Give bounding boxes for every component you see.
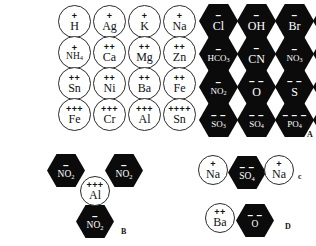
formula-label: NO3 [286,54,302,63]
ion-cation[interactable]: + Ag [93,5,126,38]
ion-anion[interactable]: – HSO4 [313,37,316,71]
ion-anion[interactable]: – NO2 [105,154,143,187]
ion-anion[interactable]: – Br [275,4,314,38]
formula-label: HCO3 [207,54,229,63]
formula-label: NO2 [58,170,75,180]
formula-label: SO4 [239,172,254,182]
formula-label: NH4 [66,52,83,62]
formula-label: Cr [104,113,116,125]
formula-label: Al [139,113,151,125]
formula-label: PO4 [287,120,302,129]
ion-cation[interactable]: +++ Cr [93,98,126,131]
ion-anion[interactable]: – – Cr2O7 [313,70,316,104]
formula-label: Ba [138,82,151,94]
panel-label-a: A [307,130,313,139]
formula-label: Na [272,168,286,180]
formula-label: Cl [213,20,224,32]
ion-cation[interactable]: ++++ Sn [163,98,196,131]
formula-label: K [140,20,149,32]
ion-anion[interactable]: – – O [237,70,276,104]
formula-label: Ag [102,20,117,32]
ion-cation[interactable]: ++ Ba [128,67,161,100]
formula-label: OH [248,20,265,32]
panel-label-b: B [121,227,126,236]
ion-anion[interactable]: – Cl [199,4,238,38]
formula-label: Al [89,189,101,201]
ion-cation[interactable]: +++ Al [128,98,161,131]
formula-label: Sn [173,113,186,125]
panel-label-c: c [298,172,302,181]
formula-label: SO4 [249,120,264,129]
formula-label: Ni [104,82,116,94]
formula-label: SO3 [211,120,226,129]
ion-cation[interactable]: + Na [198,155,228,185]
ion-anion[interactable]: – – – Fe(CN)6 [313,103,316,137]
formula-label: Fe [69,113,81,125]
ion-cation[interactable]: + Na [163,5,196,38]
ion-cation[interactable]: ++ Sn [58,67,91,100]
ion-cation[interactable]: + Na [264,155,294,185]
ion-anion[interactable]: – NO2 [199,70,238,104]
formula-label: NO2 [116,170,133,180]
formula-label: Ca [103,51,116,63]
formula-label: Sn [68,82,81,94]
ion-anion[interactable]: – OH [237,4,276,38]
ion-anion[interactable]: – – O [236,204,274,237]
ion-cation[interactable]: ++ Ca [93,36,126,69]
formula-label: CN [248,53,265,65]
formula-label: Zn [173,51,186,63]
ion-anion[interactable]: – NO3 [275,37,314,71]
ion-anion[interactable]: – NO2 [76,205,114,238]
ion-anion[interactable]: – – S [275,70,314,104]
panel-label-d: D [285,222,291,231]
formula-label: O [252,86,261,98]
formula-label: S [291,86,298,98]
ion-anion[interactable]: – HCO3 [199,37,238,71]
formula-label: NO2 [87,221,104,231]
ion-cation[interactable]: ++ Ni [93,67,126,100]
formula-label: Ba [213,216,226,228]
ion-anion[interactable]: – NO2 [47,154,85,187]
ion-cation[interactable]: ++ Zn [163,36,196,69]
formula-label: H [70,20,79,32]
ion-cation[interactable]: ++ Fe [163,67,196,100]
ion-cation[interactable]: ++ Ba [205,203,235,233]
formula-label: Mg [136,51,153,63]
ion-anion[interactable]: – – SO4 [237,103,276,137]
ion-anion[interactable]: – – SO4 [228,156,266,189]
ion-cation[interactable]: ++ Mg [128,36,161,69]
formula-label: Br [289,20,301,32]
formula-label: Fe [174,82,186,94]
formula-label: O [252,220,259,230]
ion-cation[interactable]: +++ Al [80,176,110,206]
ion-anion[interactable]: – CN [237,37,276,71]
formula-label: Na [206,168,220,180]
formula-label: NO2 [210,87,226,96]
ion-cation[interactable]: +++ Fe [58,98,91,131]
ion-anion[interactable]: – ClO3 [313,4,316,38]
ion-cation[interactable]: + NH4 [58,36,91,69]
formula-label: Na [173,20,187,32]
ion-cation[interactable]: + K [128,5,161,38]
ion-anion[interactable]: – – SO3 [199,103,238,137]
ion-cation[interactable]: + H [58,5,91,38]
